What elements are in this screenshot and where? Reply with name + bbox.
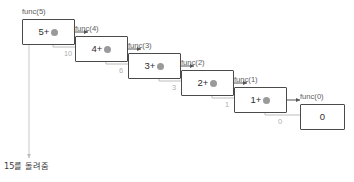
frame-box-func3: 3+ <box>128 53 181 79</box>
frame-box-func2: 2+ <box>181 70 234 96</box>
frame-body-func2: 2+ <box>198 78 218 88</box>
frame-title-func5: func(5) <box>22 8 46 16</box>
return-label-to-func3: 3 <box>172 84 176 91</box>
frame-title-func4: func(4) <box>75 25 99 33</box>
frame-body-func0: 0 <box>320 112 325 122</box>
recursion-call-stack-diagram: func(5) 5+ func(4) 4+ func(3) 3+ func(2)… <box>0 0 354 182</box>
frame-expr-func1: 1+ <box>251 95 262 105</box>
return-label-to-func2: 1 <box>225 101 229 108</box>
frame-title-func0: func(0) <box>300 93 324 101</box>
placeholder-dot-icon-func3 <box>157 63 164 70</box>
return-label-to-func1: 0 <box>278 118 282 125</box>
placeholder-dot-icon-func4 <box>104 46 111 53</box>
return-label-to-func5: 10 <box>64 50 72 57</box>
frame-body-func1: 1+ <box>251 95 271 105</box>
placeholder-dot-icon-func5 <box>51 29 58 36</box>
frame-expr-func3: 3+ <box>145 61 156 71</box>
frame-body-func5: 5+ <box>39 27 59 37</box>
frame-box-func0: 0 <box>300 104 345 130</box>
frame-value-func0: 0 <box>320 112 325 122</box>
frame-title-func2: func(2) <box>181 59 205 67</box>
frame-title-func1: func(1) <box>234 76 258 84</box>
placeholder-dot-icon-func1 <box>263 97 270 104</box>
frame-title-func3: func(3) <box>128 42 152 50</box>
placeholder-dot-icon-func2 <box>210 80 217 87</box>
frame-box-func1: 1+ <box>234 87 287 113</box>
frame-expr-func4: 4+ <box>92 44 103 54</box>
frame-body-func4: 4+ <box>92 44 112 54</box>
frame-body-func3: 3+ <box>145 61 165 71</box>
frame-expr-func2: 2+ <box>198 78 209 88</box>
return-label-to-func4: 6 <box>119 67 123 74</box>
frame-expr-func5: 5+ <box>39 27 50 37</box>
frame-box-func4: 4+ <box>75 36 128 62</box>
final-return-caption: 15를 돌려줌 <box>4 162 49 170</box>
frame-box-func5: 5+ <box>22 19 75 45</box>
